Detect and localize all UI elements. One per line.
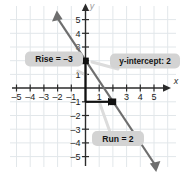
callout-run: Run = 2 xyxy=(92,131,144,146)
coordinate-plane-chart: x y –5 –4 –3 –2 –1 1 3 4 5 5 4 3 2 1 –1 … xyxy=(0,0,184,173)
y-axis-label: y xyxy=(89,1,95,11)
callout-rise-label: Rise = –3 xyxy=(35,54,73,64)
x-tick-label: –2 xyxy=(53,92,63,102)
callout-y-intercept-label: y-intercept: 2 xyxy=(119,57,171,66)
y-tick-label: 4 xyxy=(75,29,80,39)
callout-run-label: Run = 2 xyxy=(102,134,133,144)
callout-rise: Rise = –3 xyxy=(25,52,83,67)
x-tick-label: –3 xyxy=(39,92,49,102)
x-tick-label: –4 xyxy=(25,92,35,102)
graph-figure: x y –5 –4 –3 –2 –1 1 3 4 5 5 4 3 2 1 –1 … xyxy=(0,0,184,173)
x-tick-label: 5 xyxy=(151,92,156,102)
y-tick-label: –1 xyxy=(70,97,80,107)
y-tick-label: –4 xyxy=(70,138,80,148)
point-second xyxy=(110,99,117,106)
x-tick-label: 1 xyxy=(97,92,102,102)
x-tick-label: –5 xyxy=(11,92,21,102)
x-tick-label: 3 xyxy=(124,92,129,102)
chart-background xyxy=(0,0,184,173)
x-tick-label: 4 xyxy=(138,92,143,102)
y-tick-label: –5 xyxy=(70,152,80,162)
y-tick-label: –2 xyxy=(70,111,80,121)
x-axis-label: x xyxy=(173,76,179,86)
y-tick-label: 5 xyxy=(75,15,80,25)
point-y-intercept xyxy=(82,58,89,65)
callout-y-intercept: y-intercept: 2 xyxy=(110,54,180,69)
y-tick-label: –3 xyxy=(70,125,80,135)
